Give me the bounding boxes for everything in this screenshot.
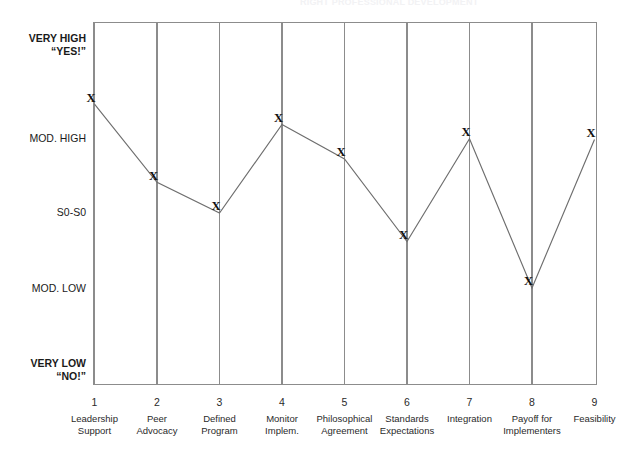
gridline-5 bbox=[344, 22, 345, 385]
y-axis-label-text: MOD. HIGH bbox=[0, 132, 86, 145]
gridline-6 bbox=[406, 22, 407, 385]
gridline-4 bbox=[281, 22, 282, 385]
gridline-2 bbox=[156, 22, 157, 385]
y-axis-label-subtext: “NO!” bbox=[0, 370, 86, 383]
y-axis-label-4: MOD. LOW bbox=[0, 282, 86, 295]
y-axis-label-2: MOD. HIGH bbox=[0, 132, 86, 145]
x-axis-tick-number: 9 bbox=[552, 396, 638, 408]
gridline-1 bbox=[94, 22, 95, 385]
gridline-7 bbox=[469, 22, 470, 385]
x-axis-tick-9: 9Feasibility bbox=[552, 396, 638, 425]
y-axis-label-text: VERY HIGH bbox=[0, 32, 86, 45]
y-axis-label-5: VERY LOW“NO!” bbox=[0, 357, 86, 383]
y-axis-label-text: VERY LOW bbox=[0, 357, 86, 370]
y-axis-label-1: VERY HIGH“YES!” bbox=[0, 32, 86, 58]
chart-container: RIGHT PROFESSIONAL DEVELOPMENT VERY HIGH… bbox=[0, 0, 639, 468]
x-axis-tick-caption: Feasibility bbox=[552, 413, 638, 425]
gridline-8 bbox=[531, 22, 532, 385]
y-axis-label-subtext: “YES!” bbox=[0, 45, 86, 58]
gridline-3 bbox=[219, 22, 220, 385]
y-axis-label-3: S0-S0 bbox=[0, 206, 86, 219]
scan-header-fragment: RIGHT PROFESSIONAL DEVELOPMENT bbox=[300, 0, 630, 6]
y-axis-label-text: MOD. LOW bbox=[0, 282, 86, 295]
y-axis-label-text: S0-S0 bbox=[0, 206, 86, 219]
